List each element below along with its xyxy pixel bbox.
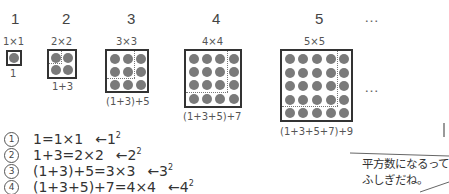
bubble-line-2: ふしぎだね。 xyxy=(362,172,449,188)
equation-row-3: 3(1+3)+5=3×3←32 xyxy=(4,163,173,179)
dot xyxy=(339,95,349,105)
dot xyxy=(298,95,308,105)
dot xyxy=(339,68,349,78)
divider-line xyxy=(186,92,228,93)
dim-label-3: 3×3 xyxy=(116,36,137,47)
speech-bubble-text: 平方数になるって ふしぎだね。 xyxy=(362,156,449,188)
dim-label-5: 5×5 xyxy=(304,36,325,47)
left-arrow-power: ←4 xyxy=(168,179,189,194)
dot xyxy=(63,53,73,63)
equation-lhs: (1+3+5)+7=4×4 xyxy=(33,179,156,194)
dot xyxy=(285,95,295,105)
circled-number-2: 2 xyxy=(4,148,19,163)
dot xyxy=(339,81,349,91)
equation-lhs: (1+3)+5=3×3 xyxy=(33,163,135,179)
sum-label-3: (1+3)+5 xyxy=(106,96,150,107)
dot xyxy=(312,95,322,105)
sum-label-5: (1+3+5+7)+9 xyxy=(280,126,353,137)
stage-number-3: 3 xyxy=(127,10,135,27)
sum-label-4: (1+3+5)+7 xyxy=(183,111,241,122)
exponent: 2 xyxy=(136,147,141,156)
dot xyxy=(326,81,336,91)
divider-line xyxy=(337,51,338,106)
dot xyxy=(326,54,336,64)
bubble-edge-mark xyxy=(443,123,445,137)
dot xyxy=(202,67,212,77)
dot xyxy=(285,81,295,91)
dot xyxy=(136,80,146,90)
dot xyxy=(202,54,212,64)
divider-line xyxy=(134,51,135,78)
divider-line xyxy=(227,51,228,92)
dot xyxy=(189,54,199,64)
dot xyxy=(51,65,61,75)
dot xyxy=(339,108,349,118)
sum-label-1: 1 xyxy=(10,68,16,79)
dim-label-2: 2×2 xyxy=(51,36,72,47)
left-arrow-power: ←1 xyxy=(95,131,116,147)
exponent: 2 xyxy=(116,131,121,140)
left-arrow-power: ←3 xyxy=(147,163,168,179)
dot xyxy=(189,80,199,90)
dot xyxy=(339,54,349,64)
dot-square-2x2 xyxy=(47,49,77,79)
circled-number-3: 3 xyxy=(4,164,19,179)
stage-number-2: 2 xyxy=(62,10,70,27)
dot xyxy=(312,108,322,118)
dot xyxy=(9,53,19,63)
dot xyxy=(123,54,133,64)
dim-label-1: 1×1 xyxy=(3,36,24,47)
dot xyxy=(215,54,225,64)
dot xyxy=(215,67,225,77)
stage-number-5: 5 xyxy=(315,10,323,27)
equation-row-2: 21+3=2×2←22 xyxy=(4,147,142,163)
dot xyxy=(298,54,308,64)
left-arrow-power: ←2 xyxy=(116,147,137,163)
circled-number-1: 1 xyxy=(4,132,19,147)
bubble-line-1: 平方数になるって xyxy=(362,156,449,172)
dot-square-3x3 xyxy=(105,49,149,93)
dot xyxy=(285,68,295,78)
dot xyxy=(312,68,322,78)
dot xyxy=(110,67,120,77)
dot xyxy=(326,95,336,105)
equation-lhs: 1=1×1 xyxy=(33,131,83,147)
ellipsis-top: … xyxy=(364,8,379,25)
dot xyxy=(136,54,146,64)
dot xyxy=(312,54,322,64)
dot xyxy=(202,94,212,104)
equation-lhs: 1+3=2×2 xyxy=(33,147,104,163)
exponent: 2 xyxy=(168,163,173,172)
dot xyxy=(326,108,336,118)
equation-row-4: 4(1+3+5)+7=4×4←42 xyxy=(4,179,194,194)
sum-label-2: 1+3 xyxy=(52,81,73,92)
dot xyxy=(215,94,225,104)
ellipsis-mid: … xyxy=(364,78,379,95)
dot xyxy=(110,54,120,64)
stage-number-1: 1 xyxy=(11,10,19,27)
dot xyxy=(285,108,295,118)
dot xyxy=(229,54,239,64)
circled-number-4: 4 xyxy=(4,180,19,194)
dot xyxy=(110,80,120,90)
dot xyxy=(51,53,61,63)
dot xyxy=(136,67,146,77)
dim-label-4: 4×4 xyxy=(202,36,223,47)
dot xyxy=(298,81,308,91)
dot xyxy=(189,94,199,104)
dot xyxy=(229,80,239,90)
divider-line xyxy=(49,63,62,64)
dot xyxy=(123,67,133,77)
equation-row-1: 11=1×1←12 xyxy=(4,131,121,147)
dot xyxy=(298,108,308,118)
dot xyxy=(298,68,308,78)
dot xyxy=(189,67,199,77)
divider-line xyxy=(107,78,135,79)
dot xyxy=(123,80,133,90)
dot xyxy=(202,80,212,90)
dot xyxy=(229,94,239,104)
dot xyxy=(63,65,73,75)
stage-number-4: 4 xyxy=(212,10,220,27)
dot-square-5x5 xyxy=(280,49,353,122)
dot xyxy=(312,81,322,91)
